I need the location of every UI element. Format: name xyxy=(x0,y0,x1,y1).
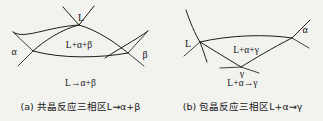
vertex-label-alpha: α xyxy=(302,24,308,35)
figure-root: L α β L+α+β L→α+β (a) 共晶反应三相区L→α+β xyxy=(0,0,323,121)
alpha-vertex-crossing-extension xyxy=(292,38,309,48)
reaction-equation-peritectic: L+α→γ xyxy=(162,78,323,88)
caption-eutectic: (a) 共晶反应三相区L→α+β xyxy=(0,99,161,113)
reaction-equation-eutectic: L→α+β xyxy=(0,78,161,88)
liquidus-curve-left xyxy=(13,25,79,35)
vertex-label-gamma: γ xyxy=(239,68,245,78)
caption-peritectic: (b) 包晶反应三相区L+α→γ xyxy=(162,99,323,113)
region-label-peritectic: L+α+γ xyxy=(233,45,259,55)
liquidus-branch-left xyxy=(63,7,79,25)
gamma-right-extension xyxy=(220,67,241,68)
vertex-label-beta: β xyxy=(142,49,147,60)
peritectic-diagram: L α γ L+α+γ xyxy=(162,0,323,78)
panel-eutectic: L α β L+α+β L→α+β (a) 共晶反应三相区L→α+β xyxy=(0,0,161,121)
region-label-eutectic: L+α+β xyxy=(66,40,92,50)
eutectic-diagram: L α β L+α+β xyxy=(0,0,161,78)
vertex-label-L: L xyxy=(78,12,84,23)
liquidus-curve-lower-left xyxy=(200,42,207,62)
vertex-label-alpha: α xyxy=(11,46,17,57)
peritectic-horizontal-edge xyxy=(200,36,292,42)
alpha-solvus-extension xyxy=(18,51,33,66)
panel-peritectic: L α γ L+α+γ L+α→γ (b) 包晶反应三相区L+α→γ xyxy=(162,0,323,121)
vertex-label-L: L xyxy=(185,38,191,49)
